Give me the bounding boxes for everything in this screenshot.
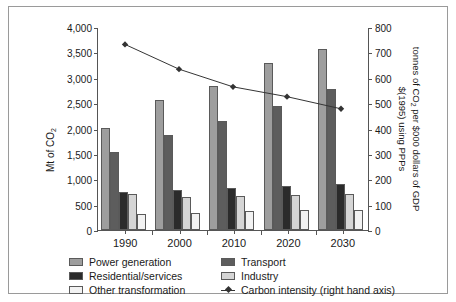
y-axis-left-title-text: Mt of CO [45, 132, 56, 172]
legend-item[interactable]: Industry [221, 270, 409, 282]
legend-item[interactable]: Transport [221, 256, 409, 268]
bar [209, 86, 218, 230]
bar [137, 214, 146, 230]
chart-legend: Power generationTransportResidential/ser… [69, 255, 409, 297]
line-marker-icon [221, 286, 235, 294]
bar [164, 135, 173, 230]
y-axis-right-tick-label: 700 [375, 48, 392, 59]
legend-label: Power generation [89, 256, 171, 268]
x-axis-tick [180, 230, 181, 234]
x-axis-tick [316, 231, 317, 235]
bar [173, 190, 182, 230]
legend-swatch [69, 258, 83, 266]
bar [236, 196, 245, 230]
bar-group: 2020 [261, 28, 315, 230]
y-axis-right-title-line1b: per $000 dollars of GDP [411, 107, 422, 212]
y-axis-left-tick-label: 1,000 [67, 175, 92, 186]
bar [155, 100, 164, 230]
bar [318, 49, 327, 230]
x-axis-tick-label: 2010 [222, 237, 246, 249]
y-axis-left-tick-label: 2,000 [67, 124, 92, 135]
y-axis-left-title-subscript: 2 [50, 128, 57, 132]
x-axis-tick [234, 230, 235, 234]
y-axis-left-tick-label: 3,500 [67, 48, 92, 59]
y-axis-right-tick-label: 400 [375, 124, 392, 135]
legend-label: Transport [241, 256, 286, 268]
bar [227, 188, 236, 230]
y-axis-right-tick-label: 500 [375, 99, 392, 110]
x-axis-tick [152, 231, 153, 235]
legend-swatch [221, 272, 235, 280]
y-axis-right-title-line1a: tonnes of CO [411, 47, 422, 103]
bar [327, 89, 336, 230]
bar [336, 184, 345, 230]
bar [354, 210, 363, 230]
y-axis-left-tick-label: 3,000 [67, 73, 92, 84]
x-axis-tick-label: 1990 [113, 237, 137, 249]
y-axis-right-title-line2: $(1995) using PPPs [397, 87, 408, 172]
y-axis-right-tick-label: 800 [375, 23, 392, 34]
y-axis-right-tick-label: 600 [375, 73, 392, 84]
x-axis-tick [343, 230, 344, 234]
y-axis-left-tick-label: 1,500 [67, 149, 92, 160]
bar [191, 213, 200, 230]
x-axis-tick-label: 2030 [331, 237, 355, 249]
legend-swatch [69, 272, 83, 280]
bar [273, 106, 282, 230]
legend-label: Other transformation [89, 284, 185, 296]
x-axis-tick [207, 231, 208, 235]
y-axis-right-tick-label: 0 [375, 226, 381, 237]
bar-groups: 19902000201020202030 [98, 28, 368, 230]
bar-group: 2010 [207, 28, 261, 230]
bar [291, 195, 300, 230]
legend-label: Carbon intensity (right hand axis) [241, 284, 395, 296]
y-axis-left-tick-label: 500 [75, 200, 92, 211]
y-axis-left-tick-label: 2,500 [67, 99, 92, 110]
y-axis-left-tick [94, 231, 98, 232]
legend-item[interactable]: Carbon intensity (right hand axis) [221, 284, 409, 296]
x-axis-tick [288, 230, 289, 234]
legend-label: Residential/services [89, 270, 182, 282]
plot-area: 05001,0001,5002,0002,5003,0003,5004,000 … [97, 28, 369, 231]
legend-item[interactable]: Power generation [69, 256, 221, 268]
y-axis-left-tick-label: 4,000 [67, 23, 92, 34]
legend-label: Industry [241, 270, 278, 282]
y-axis-right-tick-label: 200 [375, 175, 392, 186]
y-axis-left-title: Mt of CO2 [45, 128, 57, 172]
bar [182, 197, 191, 230]
bar [300, 210, 309, 230]
bar [128, 194, 137, 230]
x-axis-tick-label: 2000 [167, 237, 191, 249]
bar [101, 128, 110, 230]
bar [119, 192, 128, 230]
y-axis-left-tick-label: 0 [86, 226, 92, 237]
chart-root: Mt of CO2 tonnes of CO2 per $000 dollars… [0, 0, 456, 302]
y-axis-right-title: tonnes of CO2 per $000 dollars of GDP $(… [397, 47, 422, 211]
y-axis-right-tick-label: 300 [375, 149, 392, 160]
bar [245, 211, 254, 230]
bar [218, 121, 227, 230]
legend-item[interactable]: Residential/services [69, 270, 221, 282]
y-axis-right-tick [368, 231, 372, 232]
bar [110, 152, 119, 230]
bar [264, 63, 273, 230]
bar-group: 1990 [98, 28, 152, 230]
bar [345, 194, 354, 230]
legend-swatch [69, 286, 83, 294]
bar [282, 186, 291, 230]
legend-swatch [221, 258, 235, 266]
x-axis-tick [261, 231, 262, 235]
chart-frame: Mt of CO2 tonnes of CO2 per $000 dollars… [8, 6, 448, 294]
y-axis-right-tick-label: 100 [375, 200, 392, 211]
legend-item[interactable]: Other transformation [69, 284, 221, 296]
x-axis-tick-label: 2020 [276, 237, 300, 249]
x-axis-tick [125, 230, 126, 234]
bar-group: 2000 [152, 28, 206, 230]
bar-group: 2030 [316, 28, 370, 230]
